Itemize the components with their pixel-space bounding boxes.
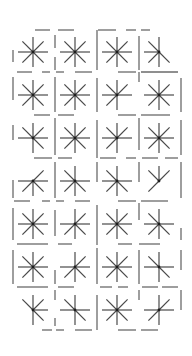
star-cell-r7-c2 — [60, 295, 90, 325]
spoke-sw — [22, 181, 33, 192]
spoke-ne — [159, 299, 170, 310]
spoke-nw — [64, 299, 75, 310]
star-cell-r4-c1 — [18, 170, 48, 196]
spoke-se — [117, 224, 128, 235]
spoke-nw — [106, 170, 117, 181]
cell-walls — [13, 30, 181, 330]
spoke-sw — [106, 267, 117, 278]
star-hub — [116, 180, 119, 183]
star-hub — [116, 51, 119, 54]
spoke-ne — [117, 127, 128, 138]
spoke-sw — [148, 95, 159, 106]
spoke-sw — [22, 267, 33, 278]
spoke-ne — [75, 127, 86, 138]
spoke-ne — [75, 41, 86, 52]
star-cell-r2-c2 — [60, 80, 90, 110]
star-cell-r4-c3 — [102, 166, 132, 196]
spoke-se — [117, 181, 128, 192]
spoke-sw — [64, 181, 75, 192]
spoke-se — [75, 267, 86, 278]
spoke-nw — [106, 256, 117, 267]
spoke-ne — [33, 170, 44, 181]
spoke-se — [33, 310, 44, 321]
star-cell-r5-c4 — [144, 209, 174, 239]
star-cell-r3-c3 — [102, 123, 132, 153]
star-cell-r5-c1 — [18, 209, 48, 239]
spoke-nw — [106, 41, 117, 52]
star-hub — [74, 266, 77, 269]
spoke-nw — [64, 41, 75, 52]
star-hub — [158, 180, 161, 183]
spoke-se — [159, 52, 170, 63]
star-cell-r1-c2 — [60, 37, 90, 67]
star-hub — [74, 180, 77, 183]
star-hub — [74, 137, 77, 140]
spoke-se — [117, 267, 128, 278]
spoke-sw — [148, 181, 159, 192]
spoke-nw — [148, 213, 159, 224]
spoke-ne — [159, 84, 170, 95]
spoke-ne — [117, 84, 128, 95]
star-hub — [32, 137, 35, 140]
spoke-sw — [64, 267, 75, 278]
spoke-ne — [117, 299, 128, 310]
star-hub — [158, 266, 161, 269]
spoke-nw — [148, 84, 159, 95]
star-cell-r3-c4 — [144, 123, 174, 153]
spoke-sw — [64, 95, 75, 106]
spoke-se — [33, 224, 44, 235]
spoke-nw — [148, 127, 159, 138]
star-cell-r6-c4 — [144, 252, 174, 282]
star-cell-r2-c3 — [102, 80, 132, 110]
spoke-se — [33, 95, 44, 106]
star-grid-diagram — [0, 0, 192, 356]
spoke-nw — [148, 41, 159, 52]
spoke-nw — [64, 127, 75, 138]
spoke-nw — [22, 299, 33, 310]
spoke-se — [159, 224, 170, 235]
star-cell-r6-c3 — [102, 252, 132, 282]
spoke-sw — [106, 224, 117, 235]
star-hub — [158, 94, 161, 97]
star-hub — [116, 266, 119, 269]
spoke-nw — [22, 127, 33, 138]
star-cell-r2-c4 — [144, 80, 174, 110]
spoke-sw — [64, 138, 75, 149]
spoke-sw — [148, 52, 159, 63]
spoke-sw — [22, 224, 33, 235]
spoke-sw — [106, 95, 117, 106]
star-cell-r3-c2 — [60, 123, 90, 153]
spoke-ne — [33, 256, 44, 267]
spoke-sw — [106, 52, 117, 63]
spoke-ne — [159, 127, 170, 138]
star-hub — [74, 223, 77, 226]
spoke-se — [159, 267, 170, 278]
spoke-ne — [75, 256, 86, 267]
spoke-ne — [33, 127, 44, 138]
star-hub — [158, 223, 161, 226]
spoke-ne — [117, 41, 128, 52]
star-hub — [32, 223, 35, 226]
star-cell-r7-c1 — [22, 295, 48, 325]
spoke-sw — [148, 224, 159, 235]
spoke-se — [33, 138, 44, 149]
spoke-ne — [33, 213, 44, 224]
star-cell-r2-c1 — [18, 80, 48, 110]
star-hub — [158, 137, 161, 140]
star-hub — [116, 223, 119, 226]
spoke-se — [33, 52, 44, 63]
star-cell-r3-c1 — [18, 123, 48, 153]
star-hub — [74, 94, 77, 97]
spoke-ne — [75, 84, 86, 95]
star-hub — [32, 180, 35, 183]
star-cell-r1-c3 — [102, 37, 132, 67]
spoke-se — [159, 138, 170, 149]
spoke-nw — [22, 84, 33, 95]
star-cells — [18, 37, 174, 325]
spoke-nw — [106, 299, 117, 310]
star-cell-r4-c2 — [60, 166, 90, 196]
star-cell-r5-c3 — [102, 209, 132, 239]
spoke-se — [75, 95, 86, 106]
spoke-sw — [148, 138, 159, 149]
spoke-se — [159, 95, 170, 106]
